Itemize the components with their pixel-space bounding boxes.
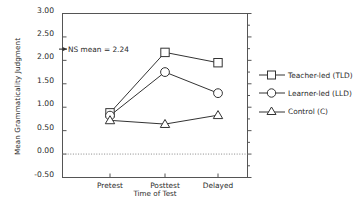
y-axis-ticks <box>63 14 67 178</box>
legend-label-teacher-led: Teacher-led (TLD) <box>286 71 353 80</box>
legend: Teacher-led (TLD) Learner-led (LLD) Cont… <box>258 66 353 120</box>
y-tick-label-0.00: 0.00 <box>20 146 54 155</box>
data-point-circle-delayed <box>214 89 223 98</box>
y-tick-label-3.00: 3.00 <box>20 6 54 15</box>
y-tick-label-1.50: 1.50 <box>20 76 54 85</box>
data-point-square-posttest <box>161 48 169 56</box>
series-circle <box>106 68 223 120</box>
x-tick-label-posttest: Posttest <box>135 181 195 190</box>
legend-label-learner-led: Learner-led (LLD) <box>286 89 352 98</box>
legend-item-learner-led: Learner-led (LLD) <box>258 84 353 102</box>
square-marker-icon <box>258 68 286 82</box>
legend-label-control: Control (C) <box>286 107 328 116</box>
x-axis-title: Time of Test <box>62 189 248 198</box>
triangle-marker-icon <box>258 104 286 118</box>
ns-mean-arrow-icon <box>59 47 67 51</box>
y-axis-ticks-right <box>248 14 252 178</box>
y-tick-label-2.50: 2.50 <box>20 29 54 38</box>
data-point-square-delayed <box>214 59 222 67</box>
y-tick-label--0.50: -0.50 <box>20 170 54 179</box>
series-triangle <box>105 111 222 128</box>
y-tick-label-1.00: 1.00 <box>20 99 54 108</box>
legend-item-teacher-led: Teacher-led (TLD) <box>258 66 353 84</box>
ns-mean-annotation: NS mean = 2.24 <box>68 45 129 54</box>
x-axis-ticks <box>110 174 218 178</box>
x-tick-label-delayed: Delayed <box>188 181 248 190</box>
x-tick-label-pretest: Pretest <box>80 181 140 190</box>
y-tick-label-0.50: 0.50 <box>20 123 54 132</box>
y-tick-label-2.00: 2.00 <box>20 52 54 61</box>
data-point-circle-posttest <box>161 68 170 77</box>
data-point-triangle-delayed <box>213 111 222 119</box>
circle-marker-icon <box>258 86 286 100</box>
grammaticality-judgment-line-chart: Mean Grammaticality Judgment Time of Tes… <box>0 0 363 210</box>
series-square <box>106 48 222 117</box>
data-series-layer <box>105 48 222 127</box>
legend-item-control: Control (C) <box>258 102 353 120</box>
